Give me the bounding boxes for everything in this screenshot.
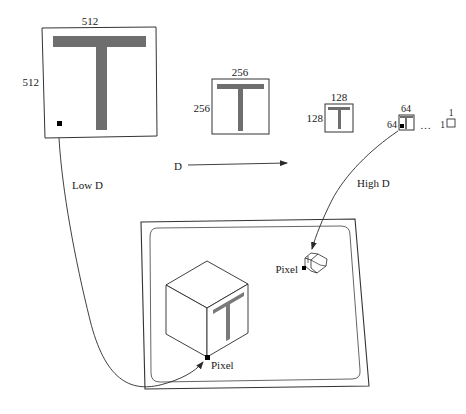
mip-level-128: 128 128 [307,91,354,132]
d-axis: D [174,160,287,172]
height-label-128: 128 [307,112,324,124]
width-label-256: 256 [232,66,249,78]
pixel-label-large: Pixel [211,359,234,371]
low-d-label: Low D [72,179,103,191]
ellipsis: … [420,119,431,131]
width-label-512: 512 [82,15,99,27]
t-stem-256 [238,89,243,131]
d-axis-label: D [174,160,182,172]
width-label-1: 1 [449,108,454,118]
mip-level-256: 256 256 [194,66,270,134]
mip-level-1: 1 1 [440,108,455,130]
t-stem-128 [338,110,341,129]
pixel-label-small: Pixel [275,263,298,275]
width-label-128: 128 [331,91,348,103]
cube-t-stem [226,302,230,341]
height-label-64: 64 [387,119,397,130]
pixel-marker-small [302,266,306,270]
t-stem-512 [96,47,107,130]
pixel-marker-512 [57,121,62,126]
high-d-label: High D [357,177,390,189]
texture-frame-1 [447,119,455,127]
height-label-256: 256 [194,102,211,114]
t-bar-128 [328,107,350,110]
d-axis-arrow [188,163,287,165]
mip-level-64: 64 64 [387,103,414,130]
width-label-64: 64 [401,103,411,114]
pixel-marker-large [205,355,210,360]
t-bar-512 [53,36,146,47]
t-bar-256 [217,84,264,89]
pixel-marker-64 [400,124,404,128]
t-bar-64 [400,116,413,118]
t-stem-64 [405,118,407,129]
height-label-512: 512 [23,76,40,88]
height-label-1: 1 [440,120,445,130]
mipmap-diagram: 512 512 256 256 128 128 64 64 … 1 1 D [0,0,466,414]
mip-level-512: 512 512 [23,15,158,138]
